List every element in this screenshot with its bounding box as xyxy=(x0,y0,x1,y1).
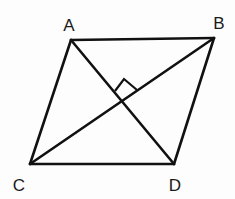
side-AB xyxy=(71,38,214,40)
vertex-label-d: D xyxy=(169,176,181,195)
vertex-label-a: A xyxy=(63,16,75,35)
right-angle-marker xyxy=(115,79,137,91)
rhombus-diagonals xyxy=(30,38,214,164)
geometry-diagram: ABCD xyxy=(0,0,235,199)
vertex-label-c: C xyxy=(13,176,25,195)
diagonal-BC xyxy=(30,38,214,164)
side-CA xyxy=(30,40,71,164)
vertex-label-b: B xyxy=(213,14,224,33)
rhombus-figure: ABCD xyxy=(0,0,235,199)
side-BD xyxy=(174,38,214,164)
